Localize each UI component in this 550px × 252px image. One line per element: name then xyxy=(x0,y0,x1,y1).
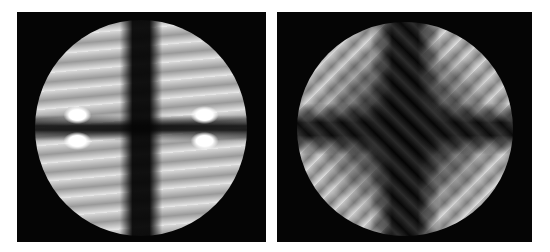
interference-disk-left xyxy=(35,20,247,236)
pattern-panel-left xyxy=(17,12,266,242)
interference-disk-right xyxy=(297,22,513,236)
pattern-panel-right xyxy=(277,12,532,242)
